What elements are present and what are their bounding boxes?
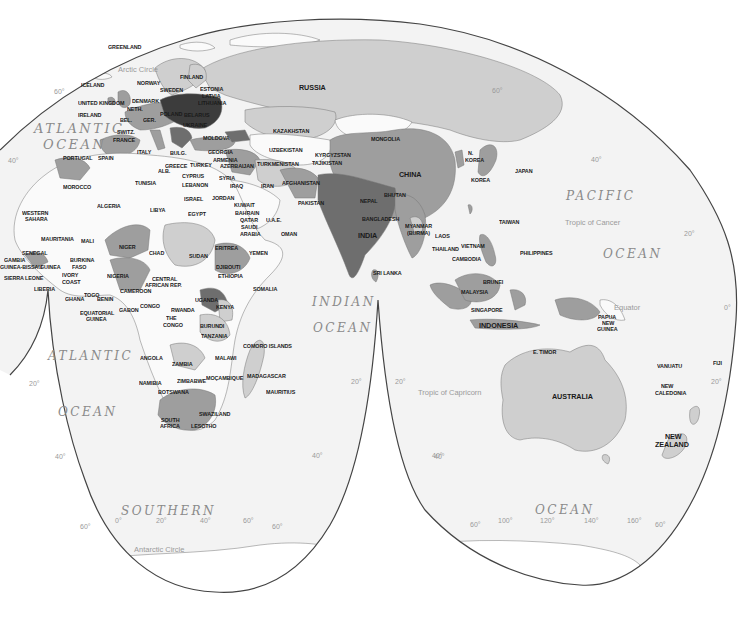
antarctic-circle-label: Antarctic Circle: [134, 546, 184, 554]
country-label: MYANMAR: [405, 223, 432, 229]
lon-label: 100°: [498, 517, 512, 524]
lat-label: 40°: [434, 453, 445, 460]
country-label: UKRAINE: [183, 122, 207, 128]
country-label: ZIMBABWE: [177, 378, 206, 384]
country-label: KAZAKHSTAN: [273, 128, 309, 134]
country-label: SAHARA: [25, 216, 48, 222]
country-label: EGYPT: [188, 211, 206, 217]
country-label: LIBYA: [150, 207, 165, 213]
lat-label: 0°: [724, 304, 731, 311]
country-label: ETHIOPIA: [218, 273, 243, 279]
country-label: BENIN: [97, 296, 113, 302]
country-label: SOMALIA: [253, 286, 277, 292]
country-label: COAST: [62, 279, 80, 285]
country-label: ITALY: [137, 149, 151, 155]
country-label: UZBEKISTAN: [269, 147, 303, 153]
country-label: MADAGASCAR: [247, 373, 286, 379]
country-label: CONGO: [140, 303, 160, 309]
country-label: JORDAN: [212, 195, 234, 201]
country-label: SAUDI: [241, 224, 257, 230]
country-label: KOREA: [465, 157, 484, 163]
country-label: ZAMBIA: [172, 361, 192, 367]
country-label: LAOS: [435, 233, 450, 239]
country-label: RUSSIA: [299, 84, 326, 92]
country-label: ZEALAND: [655, 441, 689, 449]
country-label: SIERRA LEONE: [4, 275, 43, 281]
country-label: AFRICAN REP.: [145, 282, 182, 288]
equator-label: Equator: [614, 304, 640, 312]
country-label: AZERBAIJAN: [220, 163, 254, 169]
country-label: BANGLADESH: [362, 216, 399, 222]
country-label: KENYA: [216, 304, 234, 310]
country-label: LESOTHO: [191, 423, 216, 429]
country-label: OMAN: [281, 231, 297, 237]
ocean-label-atlantic-north-2: OCEAN: [43, 138, 106, 151]
country-label: BOTSWANA: [158, 389, 189, 395]
lat-label: 20°: [351, 378, 362, 385]
country-label: TAIWAN: [499, 219, 519, 225]
country-label: LATVIA: [202, 93, 221, 99]
country-label: AUSTRALIA: [552, 393, 593, 401]
ocean-label-pacific-2: OCEAN: [603, 248, 662, 260]
country-label: FRANCE: [113, 137, 135, 143]
country-label: THE: [166, 315, 177, 321]
country-label: SWEDEN: [160, 87, 183, 93]
country-label: THAILAND: [432, 246, 459, 252]
lon-label: 60°: [655, 521, 666, 528]
country-label: FIJI: [713, 360, 722, 366]
country-label: BURKINA: [70, 257, 94, 263]
lon-label: 40°: [200, 517, 211, 524]
country-label: ISRAEL: [184, 196, 203, 202]
lon-label: 120°: [540, 517, 554, 524]
country-label: YEMEN: [249, 250, 268, 256]
country-label: MOLDOVA: [203, 135, 230, 141]
country-label: QATAR: [240, 217, 258, 223]
lat-label: 40°: [8, 157, 19, 164]
country-label: TUNISIA: [135, 180, 156, 186]
country-label: TURKMENISTAN: [257, 161, 299, 167]
country-label: GAMBIA: [4, 257, 25, 263]
lat-label: 20°: [684, 230, 695, 237]
country-label: MOÇAMBIQUE: [206, 375, 243, 381]
country-label: POLAND: [160, 111, 182, 117]
country-label: NORWAY: [137, 80, 160, 86]
country-label: N.: [468, 150, 473, 156]
ocean-label-southern-2: OCEAN: [535, 504, 594, 516]
country-label: PORTUGAL: [63, 155, 93, 161]
country-label: GREENLAND: [108, 44, 141, 50]
lon-label: 0°: [115, 517, 122, 524]
ocean-label-southern: SOUTHERN: [121, 505, 216, 517]
country-label: AFGHANISTAN: [282, 180, 320, 186]
country-label: VANUATU: [657, 363, 682, 369]
ocean-label-pacific: PACIFIC: [566, 190, 635, 202]
country-label: MONGOLIA: [371, 136, 400, 142]
country-label: MALAWI: [215, 355, 236, 361]
country-label: MALI: [81, 238, 94, 244]
country-label: UGANDA: [195, 297, 218, 303]
country-label: BULG.: [170, 150, 186, 156]
country-label: SUDAN: [189, 253, 208, 259]
country-label: BELARUS: [184, 112, 209, 118]
country-label: MAURITANIA: [41, 236, 74, 242]
lon-label: 20°: [156, 517, 167, 524]
country-label: GUINEA: [86, 316, 106, 322]
ocean-label-atlantic-south-2: OCEAN: [58, 406, 117, 418]
country-label: MAURITIUS: [266, 389, 295, 395]
country-label: CHINA: [399, 171, 421, 179]
country-label: NETH.: [127, 106, 143, 112]
lat-label: 60°: [492, 87, 503, 94]
country-label: FINLAND: [180, 74, 203, 80]
country-label: CONGO: [163, 322, 183, 328]
country-label: KUWAIT: [234, 202, 255, 208]
country-label: ARABIA: [240, 231, 260, 237]
lat-label: 40°: [312, 452, 323, 459]
country-label: IRAN: [261, 183, 274, 189]
country-label: SYRIA: [219, 175, 235, 181]
country-label: ESTONIA: [200, 86, 223, 92]
country-label: LITHUANIA: [198, 100, 226, 106]
country-label: GUINEA: [597, 326, 617, 332]
country-label: DENMARK: [132, 98, 159, 104]
country-label: DJIBOUTI: [216, 264, 240, 270]
country-label: RWANDA: [171, 307, 195, 313]
lat-label: 20°: [711, 378, 722, 385]
